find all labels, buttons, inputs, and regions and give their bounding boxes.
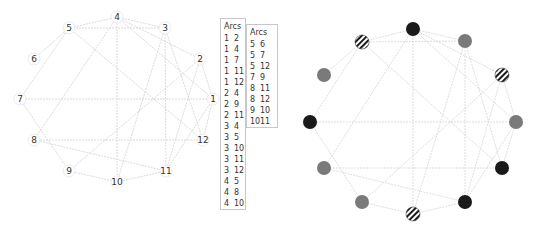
graph-coloring-figure: 123456789101112 Arcs 1 21 41 71 111 122 … (0, 0, 538, 246)
right-graph (0, 0, 538, 246)
arc-edge (362, 202, 413, 214)
arc-edge (362, 42, 502, 168)
arc-edge (413, 29, 465, 41)
colored-node-12-black (495, 161, 509, 175)
arc-edge (362, 75, 502, 202)
arc-edge (465, 122, 516, 202)
colored-node-4-black (406, 22, 420, 36)
colored-node-9-gray (355, 195, 369, 209)
arc-edge (310, 122, 362, 202)
arc-edge (324, 42, 362, 75)
arc-edge (324, 29, 413, 168)
colored-node-3-gray (458, 34, 472, 48)
colored-node-2-striped (495, 68, 509, 82)
arc-edge (413, 29, 502, 75)
arc-edge (502, 122, 516, 168)
colored-node-8-gray (317, 161, 331, 175)
colored-node-5-striped (355, 35, 369, 49)
colored-node-1-gray (509, 115, 523, 129)
arc-edge (502, 75, 516, 122)
colored-node-6-gray (317, 68, 331, 82)
arc-edge (324, 168, 465, 202)
arc-edge (362, 41, 465, 42)
arc-edge (362, 29, 413, 42)
colored-node-11-black (458, 195, 472, 209)
arc-edge (413, 202, 465, 214)
arc-edge (465, 75, 502, 202)
colored-node-10-striped (406, 207, 420, 221)
colored-node-7-black (303, 115, 317, 129)
arc-edge (310, 42, 362, 122)
arc-edge (465, 41, 502, 168)
